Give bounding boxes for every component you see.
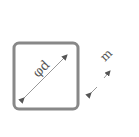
m-label: m <box>97 46 115 64</box>
phi-d-label: φd <box>30 57 53 80</box>
m-dimension-arrows <box>91 71 110 93</box>
diagram-canvas: φd m <box>0 0 139 137</box>
